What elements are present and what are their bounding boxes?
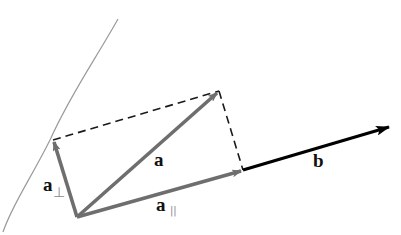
label-a-parallel: a bbox=[156, 194, 166, 215]
label-b: b bbox=[313, 150, 324, 171]
label-a-perp-subscript: ⊥ bbox=[53, 184, 65, 200]
boundary-curve bbox=[3, 19, 118, 232]
label-a-perp: a bbox=[43, 174, 53, 195]
vector-a-perp-arrow bbox=[54, 142, 77, 217]
dashed-line-right bbox=[219, 91, 243, 170]
label-a-parallel-subscript: || bbox=[170, 205, 177, 217]
vector-diagram: a b a ⊥ a || bbox=[0, 0, 401, 235]
label-a: a bbox=[154, 149, 164, 170]
